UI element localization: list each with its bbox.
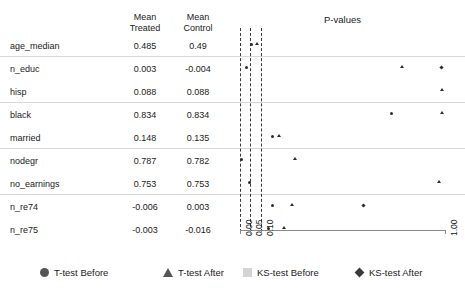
column-header-mean-treated: Mean Treated bbox=[120, 12, 170, 33]
data-point-circle bbox=[271, 204, 274, 207]
table-row: n_re74-0.0060.003 bbox=[0, 197, 232, 220]
data-point-triangle bbox=[293, 157, 297, 160]
mean-treated-value: 0.834 bbox=[120, 110, 170, 120]
mean-control-value: 0.753 bbox=[172, 179, 224, 189]
x-axis-tick-label: 1.00 bbox=[449, 219, 459, 236]
legend-diamond-icon bbox=[355, 267, 365, 277]
data-point-diamond bbox=[440, 65, 444, 69]
mean-treated-value: -0.003 bbox=[120, 225, 170, 235]
mean-control-value: 0.135 bbox=[172, 133, 224, 143]
mean-treated-value: 0.003 bbox=[120, 64, 170, 74]
mean-treated-value: 0.753 bbox=[120, 179, 170, 189]
mean-control-value: 0.834 bbox=[172, 110, 224, 120]
p-values-plot: P-values 0.000.050.101.00 bbox=[240, 0, 465, 250]
mean-treated-value: 0.088 bbox=[120, 87, 170, 97]
mean-control-value: -0.016 bbox=[172, 225, 224, 235]
legend-item[interactable]: T-test After bbox=[163, 262, 224, 282]
data-point-circle bbox=[248, 181, 251, 184]
covariate-balance-table: Mean Treated Mean Control age_median0.48… bbox=[0, 0, 232, 240]
variable-name: age_median bbox=[10, 41, 60, 51]
mean-treated-value: -0.006 bbox=[120, 202, 170, 212]
x-axis-tick bbox=[445, 230, 446, 234]
data-point-circle bbox=[271, 135, 274, 138]
data-point-circle bbox=[267, 227, 270, 230]
mean-treated-value: 0.148 bbox=[120, 133, 170, 143]
table-row: n_re75-0.003-0.016 bbox=[0, 220, 232, 243]
x-axis-tick-label: 0.05 bbox=[254, 219, 264, 236]
mean-control-value: 0.49 bbox=[172, 41, 224, 51]
data-point-circle bbox=[250, 43, 253, 46]
reference-line bbox=[250, 28, 251, 232]
variable-name: hisp bbox=[10, 87, 27, 97]
variable-name: married bbox=[10, 133, 41, 143]
variable-name: n_educ bbox=[10, 64, 40, 74]
table-row: black0.8340.834 bbox=[0, 105, 232, 128]
legend-item[interactable]: KS-test Before bbox=[243, 262, 319, 282]
mean-treated-value: 0.485 bbox=[120, 41, 170, 51]
data-point-triangle bbox=[255, 42, 259, 45]
legend-item[interactable]: KS-test After bbox=[355, 262, 422, 282]
x-axis-tick-label: 0.00 bbox=[244, 219, 254, 236]
variable-name: nodegr bbox=[10, 156, 38, 166]
data-point-triangle bbox=[440, 88, 444, 91]
mean-control-value: 0.782 bbox=[172, 156, 224, 166]
axis-origin-line bbox=[240, 28, 241, 232]
mean-treated-value: 0.787 bbox=[120, 156, 170, 166]
mean-control-value: 0.088 bbox=[172, 87, 224, 97]
legend-triangle-icon bbox=[163, 268, 173, 277]
data-point-triangle bbox=[400, 65, 404, 68]
column-header-mean-control: Mean Control bbox=[172, 12, 224, 33]
table-row: nodegr0.7870.782 bbox=[0, 151, 232, 174]
plot-legend: T-test BeforeT-test AfterKS-test BeforeK… bbox=[0, 262, 465, 288]
data-point-triangle bbox=[277, 134, 281, 137]
legend-label: T-test Before bbox=[54, 267, 108, 278]
mean-control-value: -0.004 bbox=[172, 64, 224, 74]
legend-square-icon bbox=[243, 268, 252, 277]
variable-name: no_earnings bbox=[10, 179, 60, 189]
legend-label: T-test After bbox=[178, 267, 224, 278]
data-point-circle bbox=[240, 158, 243, 161]
mean-control-value: 0.003 bbox=[172, 202, 224, 212]
data-point-triangle bbox=[290, 203, 294, 206]
data-point-triangle bbox=[437, 180, 441, 183]
legend-label: KS-test Before bbox=[257, 267, 319, 278]
data-point-triangle bbox=[440, 111, 444, 114]
variable-name: n_re75 bbox=[10, 225, 38, 235]
x-axis-tick bbox=[250, 230, 251, 234]
data-point-circle bbox=[390, 112, 393, 115]
variable-name: n_re74 bbox=[10, 202, 38, 212]
x-axis-tick bbox=[261, 230, 262, 234]
legend-label: KS-test After bbox=[369, 267, 422, 278]
table-row: n_educ0.003-0.004 bbox=[0, 59, 232, 82]
legend-item[interactable]: T-test Before bbox=[40, 262, 108, 282]
legend-circle-icon bbox=[40, 268, 49, 277]
data-point-circle bbox=[245, 66, 248, 69]
data-point-triangle bbox=[282, 226, 286, 229]
balance-plot: Mean Treated Mean Control age_median0.48… bbox=[0, 0, 465, 294]
x-axis-tick bbox=[240, 230, 241, 234]
reference-line bbox=[261, 28, 262, 232]
plot-title: P-values bbox=[240, 14, 445, 25]
data-point-diamond bbox=[361, 203, 365, 207]
variable-name: black bbox=[10, 110, 31, 120]
